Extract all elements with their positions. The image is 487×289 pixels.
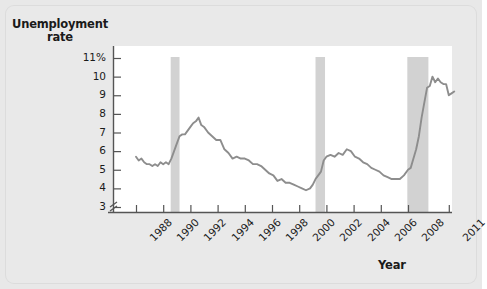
y-tick-label-10: 10	[72, 70, 106, 82]
y-tick-label-9: 9	[72, 88, 106, 100]
y-tick-label-7: 7	[72, 126, 106, 138]
y-tick-label-8: 8	[72, 107, 106, 119]
recession-band-2	[316, 57, 326, 212]
recession-band-3	[407, 57, 428, 212]
recession-band-1	[171, 57, 180, 212]
y-tick-label-3: 3	[72, 200, 106, 212]
y-tick-label-11%: 11%	[72, 51, 106, 63]
y-tick-label-6: 6	[72, 144, 106, 156]
y-tick-label-4: 4	[72, 181, 106, 193]
plot-area-background	[113, 46, 452, 212]
y-tick-label-5: 5	[72, 163, 106, 175]
